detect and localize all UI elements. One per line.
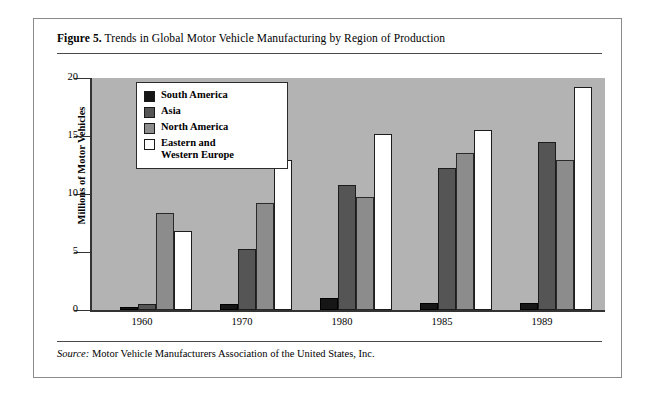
legend-item-eastern-and-western-europe: Eastern and Western Europe (144, 137, 279, 161)
y-axis-title: Millions of Motor Vehicles (76, 81, 87, 251)
legend-label-eastern-and-western-europe: Eastern and Western Europe (161, 137, 234, 161)
bar-1960-south-america (120, 307, 138, 310)
legend-label-south-america: South America (161, 89, 228, 101)
bar-1970-south-america (220, 304, 238, 310)
bar-1970-eastern-and-western-europe (274, 160, 292, 310)
bar-1960-asia (138, 304, 156, 310)
x-tick-label-1985: 1985 (407, 316, 477, 327)
x-tick-label-1989: 1989 (507, 316, 577, 327)
bar-1989-eastern-and-western-europe (574, 87, 592, 310)
y-tick-label-5: 5 (48, 246, 78, 256)
x-tick-label-1970: 1970 (207, 316, 277, 327)
legend-label-asia: Asia (161, 105, 181, 117)
source-label: Source: (57, 348, 89, 359)
legend-swatch-eastern-and-western-europe (144, 139, 155, 150)
plot-area: 0 5 10 15 20 1960 1970 1980 1985 1989 So… (90, 78, 605, 312)
bar-1980-south-america (320, 298, 338, 310)
bar-1985-south-america (420, 303, 438, 310)
x-tick-label-1980: 1980 (307, 316, 377, 327)
legend-item-north-america: North America (144, 121, 279, 134)
bar-1980-eastern-and-western-europe (374, 134, 392, 310)
legend-swatch-north-america (144, 123, 155, 134)
bar-1985-asia (438, 168, 456, 310)
figure-caption: Figure 5. Trends in Global Motor Vehicle… (57, 31, 602, 45)
legend-item-asia: Asia (144, 105, 279, 118)
y-tick-label-0: 0 (48, 304, 78, 314)
figure-number: Figure 5. (57, 32, 102, 44)
figure-caption-text: Trends in Global Motor Vehicle Manufactu… (102, 32, 445, 44)
bar-1985-eastern-and-western-europe (474, 130, 492, 310)
legend-swatch-asia (144, 107, 155, 118)
legend-item-south-america: South America (144, 89, 279, 102)
chart-region: Millions of Motor Vehicles 0 5 10 15 20 … (34, 64, 623, 336)
bar-1970-north-america (256, 203, 274, 310)
legend-swatch-south-america (144, 91, 155, 102)
bar-1985-north-america (456, 153, 474, 310)
caption-divider (57, 53, 602, 54)
y-tick-label-10: 10 (48, 188, 78, 198)
y-tick-label-20: 20 (48, 72, 78, 82)
bar-1989-asia (538, 142, 556, 310)
source-note: Source: Motor Vehicle Manufacturers Asso… (57, 348, 375, 359)
source-divider (57, 341, 602, 342)
source-text: Motor Vehicle Manufacturers Association … (89, 348, 374, 359)
bar-1960-eastern-and-western-europe (174, 231, 192, 310)
figure-frame: Figure 5. Trends in Global Motor Vehicle… (33, 18, 622, 378)
bar-1960-north-america (156, 213, 174, 310)
chart-legend: South America Asia North America Eastern… (136, 82, 288, 169)
bar-1989-south-america (520, 303, 538, 310)
bar-1970-asia (238, 249, 256, 310)
legend-label-north-america: North America (161, 121, 228, 133)
bar-1989-north-america (556, 160, 574, 310)
bar-1980-asia (338, 185, 356, 310)
bar-1980-north-america (356, 197, 374, 310)
y-tick-label-15: 15 (48, 130, 78, 140)
x-tick-label-1960: 1960 (107, 316, 177, 327)
